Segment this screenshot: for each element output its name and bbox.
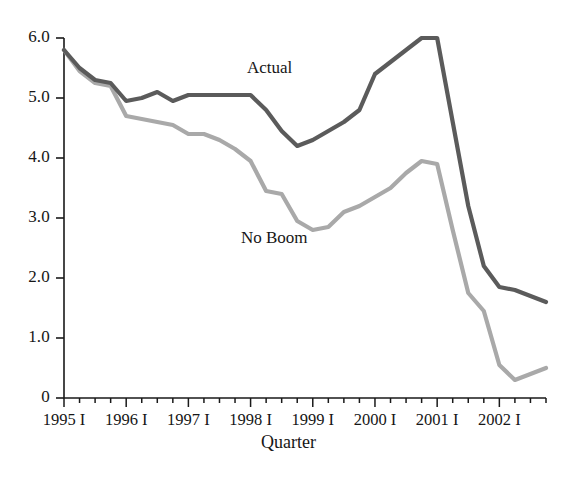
series-label-no-boom: No Boom (241, 228, 308, 248)
y-tick-label: 1.0 (28, 327, 50, 347)
x-axis-title: Quarter (0, 432, 577, 453)
y-tick-label: 4.0 (28, 147, 50, 167)
y-tick-label: 3.0 (28, 207, 50, 227)
y-tick-label: 5.0 (28, 87, 50, 107)
y-tick-label: 0 (41, 387, 50, 407)
x-axis-ticks (64, 398, 546, 407)
y-tick-label: 2.0 (28, 267, 50, 287)
x-tick-label: 2002 I (459, 410, 539, 430)
axis-lines (64, 38, 546, 398)
y-tick-label: 6.0 (28, 27, 50, 47)
series-label-actual: Actual (247, 58, 292, 78)
series-line-actual (64, 38, 546, 302)
chart-figure: 6.05.04.03.02.01.00 1995 I1996 I1997 I19… (0, 0, 577, 483)
y-axis-ticks (56, 38, 64, 398)
series-lines (64, 38, 546, 380)
